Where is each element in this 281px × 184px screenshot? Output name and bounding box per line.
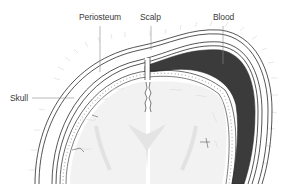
label-blood: Blood [213,13,234,22]
label-skull: Skull [10,94,28,103]
midline-fissure [145,58,150,80]
head-cross-section-diagram [0,0,281,184]
label-periosteum: Periosteum [79,13,121,22]
brain [70,82,227,184]
label-scalp: Scalp [140,13,161,22]
